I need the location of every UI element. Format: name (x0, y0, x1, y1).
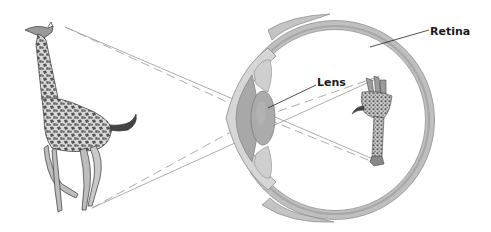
label-retina: Retina (430, 26, 470, 37)
diagram-canvas (0, 0, 491, 232)
ray-solid-top (65, 27, 380, 162)
eye (226, 14, 435, 222)
eye-diagram: Lens Retina (0, 0, 491, 232)
label-lens: Lens (317, 77, 346, 88)
leader-lines (268, 30, 429, 108)
light-rays (65, 27, 380, 208)
lens-leader-line (268, 85, 316, 108)
